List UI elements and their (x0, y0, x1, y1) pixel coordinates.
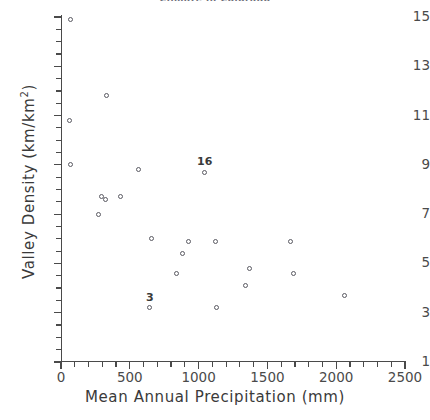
data-point-label: 3 (146, 291, 154, 304)
data-point (67, 118, 72, 123)
data-point (104, 93, 109, 98)
data-point (103, 197, 108, 202)
x-tick-label: 2500 (382, 371, 428, 385)
x-tick-minor (281, 362, 282, 367)
data-point (243, 283, 248, 288)
scatter-chart-figure: Climate in Colorado 13579111315 05001000… (0, 0, 430, 420)
x-tick-label: 0 (38, 371, 84, 385)
y-tick-label: 7 (383, 207, 430, 221)
y-axis-title: Valley Density (km/km2) (19, 32, 38, 332)
y-tick-minor (56, 287, 61, 288)
y-tick-label: 11 (383, 109, 430, 123)
chart-title: Climate in Colorado (0, 0, 430, 1)
y-tick-major (54, 164, 61, 165)
x-tick-minor (157, 362, 158, 367)
y-tick-major (54, 263, 61, 264)
data-point (147, 305, 152, 310)
data-point (68, 17, 73, 22)
y-axis-title-exponent: 2 (19, 91, 30, 98)
y-tick-minor (56, 90, 61, 91)
data-point (180, 251, 185, 256)
data-point (68, 162, 73, 167)
y-tick-minor (56, 177, 61, 178)
y-tick-minor (56, 152, 61, 153)
data-point (186, 239, 191, 244)
y-tick-minor (56, 140, 61, 141)
y-tick-label: 15 (383, 10, 430, 24)
x-tick-minor (115, 362, 116, 367)
x-tick-minor (391, 362, 392, 367)
y-tick-minor (56, 300, 61, 301)
y-tick-minor (56, 251, 61, 252)
y-tick-major (54, 214, 61, 215)
y-tick-minor (56, 127, 61, 128)
x-tick-minor (88, 362, 89, 367)
data-point (342, 293, 347, 298)
data-point (136, 167, 141, 172)
x-tick-minor (212, 362, 213, 367)
y-tick-major (54, 115, 61, 116)
x-axis-line (60, 361, 406, 362)
y-tick-major (54, 312, 61, 313)
data-point (214, 305, 219, 310)
data-point (118, 194, 123, 199)
y-tick-minor (56, 275, 61, 276)
y-tick-minor (56, 53, 61, 54)
y-tick-minor (56, 238, 61, 239)
y-tick-label: 3 (383, 306, 430, 320)
y-tick-minor (56, 201, 61, 202)
y-axis-title-paren: ) (20, 84, 38, 90)
x-tick-minor (322, 362, 323, 367)
x-tick-major (267, 362, 268, 369)
y-tick-minor (56, 324, 61, 325)
y-tick-minor (56, 103, 61, 104)
data-point (291, 271, 296, 276)
y-axis-line (61, 15, 62, 363)
x-tick-minor (308, 362, 309, 367)
x-axis-title: Mean Annual Precipitation (mm) (0, 388, 430, 406)
data-point (174, 271, 179, 276)
y-tick-minor (56, 226, 61, 227)
x-tick-minor (226, 362, 227, 367)
y-axis-title-text: Valley Density (km/km (20, 98, 38, 279)
data-point (202, 170, 207, 175)
x-tick-minor (363, 362, 364, 367)
data-point (213, 239, 218, 244)
x-tick-major (336, 362, 337, 369)
x-tick-label: 500 (107, 371, 153, 385)
data-point (247, 266, 252, 271)
y-tick-minor (56, 29, 61, 30)
data-point (96, 212, 101, 217)
x-tick-minor (143, 362, 144, 367)
x-tick-label: 2000 (313, 371, 359, 385)
x-tick-minor (74, 362, 75, 367)
x-tick-minor (294, 362, 295, 367)
x-tick-minor (349, 362, 350, 367)
y-tick-label: 5 (383, 256, 430, 270)
y-tick-minor (56, 78, 61, 79)
x-tick-major (60, 362, 61, 369)
x-tick-minor (377, 362, 378, 367)
x-tick-minor (184, 362, 185, 367)
y-tick-minor (56, 189, 61, 190)
y-tick-label: 13 (383, 59, 430, 73)
x-tick-label: 1000 (176, 371, 222, 385)
data-point-label: 16 (197, 155, 212, 168)
data-point (149, 236, 154, 241)
y-tick-label: 9 (383, 158, 430, 172)
y-tick-minor (56, 349, 61, 350)
x-tick-major (198, 362, 199, 369)
x-tick-minor (102, 362, 103, 367)
y-tick-major (54, 16, 61, 17)
x-tick-minor (239, 362, 240, 367)
x-tick-major (129, 362, 130, 369)
x-tick-major (404, 362, 405, 369)
x-tick-minor (253, 362, 254, 367)
y-tick-major (54, 66, 61, 67)
y-tick-minor (56, 41, 61, 42)
y-tick-minor (56, 337, 61, 338)
data-point (288, 239, 293, 244)
x-tick-minor (170, 362, 171, 367)
x-tick-label: 1500 (244, 371, 290, 385)
